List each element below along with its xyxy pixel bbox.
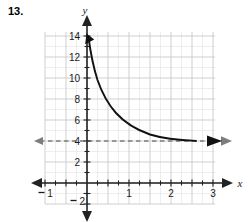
ytick-label-14: 14 <box>69 31 81 42</box>
curve-right-arrow <box>207 136 222 147</box>
y-axis-label: y <box>82 4 88 16</box>
ytick-label-2: 2 <box>74 157 80 168</box>
y-axis-down-arrow <box>82 211 92 222</box>
xtick-label-3: 3 <box>210 188 216 199</box>
asymptote-right-arrow <box>221 136 232 146</box>
graph-figure: 13. <box>0 0 250 222</box>
coordinate-plane: 14 12 10 8 6 4 2 2 1 1 2 3 y x <box>0 0 250 222</box>
ytick-label-4: 4 <box>74 136 80 147</box>
ytick-label-10: 10 <box>69 73 81 84</box>
x-axis-left-arrow <box>31 178 42 188</box>
asymptote-left-arrow <box>34 137 43 145</box>
svg-text:2: 2 <box>79 196 85 207</box>
ytick-label-12: 12 <box>69 52 81 63</box>
ytick-label-8: 8 <box>74 94 80 105</box>
exponential-curve <box>85 34 222 147</box>
x-axis-right-arrow <box>222 178 233 188</box>
ytick-label-6: 6 <box>74 115 80 126</box>
x-axis-label: x <box>237 177 243 189</box>
xtick-label-negative-1: 1 <box>39 188 54 199</box>
svg-text:1: 1 <box>47 188 53 199</box>
xtick-label-1: 1 <box>126 188 132 199</box>
y-axis-up-arrow <box>82 15 92 26</box>
xtick-label-2: 2 <box>168 188 174 199</box>
ytick-label-negative-2: 2 <box>71 196 86 207</box>
